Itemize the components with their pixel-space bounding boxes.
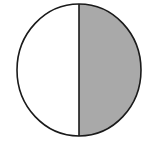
unshaded-half: [17, 4, 79, 136]
half-shaded-circle: [0, 0, 146, 143]
fraction-diagram: [0, 0, 146, 143]
shaded-half: [79, 4, 141, 136]
